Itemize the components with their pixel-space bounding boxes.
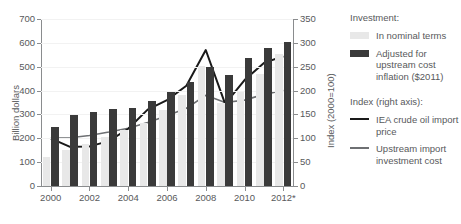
y-axis-left-tick-label: 500 [1,62,35,72]
bar-nominal [178,95,186,186]
bar-nominal [120,130,128,186]
bar-adjusted [129,108,137,186]
y-axis-right-line [293,19,294,186]
x-axis-tick-label: 2008 [186,193,226,203]
bar-nominal [217,103,225,187]
gridline [41,43,293,44]
bar-adjusted [264,48,272,186]
bar-nominal [101,137,109,186]
legend-item-nominal: In nominal terms [350,30,461,42]
x-axis-tick-label: 2010 [225,193,265,203]
legend-item-upstream-cost: Upstream import investment cost [350,143,461,166]
y-axis-left-tick-label: 300 [1,109,35,119]
bar-nominal [62,150,70,186]
y-axis-right-tick-label: 150 [300,109,334,119]
x-axis-tick [89,187,90,191]
x-axis-tick [245,187,246,191]
x-axis-tick-label: 2012* [263,193,303,203]
bar-adjusted [284,42,292,186]
bar-nominal [198,66,206,186]
plot-area [41,19,293,186]
legend-heading-index: Index (right axis): [350,96,461,107]
x-axis-tick-label: 2000 [31,193,71,203]
x-axis-tick [128,187,129,191]
y-axis-right-tick-label: 300 [300,38,334,48]
y-axis-right-tick [294,162,298,163]
y-axis-right-tick-label: 100 [300,133,334,143]
y-axis-right-tick-label: 50 [300,157,334,167]
bar-nominal [43,157,51,186]
bar-adjusted [90,112,98,186]
x-axis-tick-label: 2004 [108,193,148,203]
bar-adjusted [167,92,175,186]
bar-nominal [82,144,90,186]
bar-adjusted [187,82,195,186]
gridline [41,19,293,20]
bar-nominal [159,110,167,186]
legend-swatch-nominal-icon [350,32,369,39]
y-axis-left-tick-label: 200 [1,133,35,143]
bar-nominal [256,74,264,186]
legend-item-crude-oil-price: IEA crude oil import price [350,114,461,137]
legend-line-dark-icon [350,118,369,120]
y-axis-left-tick [37,186,41,187]
legend-label-upstream-cost: Upstream import investment cost [376,143,461,166]
legend-label-adjusted: Adjusted for upstream cost inflation ($2… [376,48,461,83]
bar-adjusted [245,58,253,186]
legend-item-adjusted: Adjusted for upstream cost inflation ($2… [350,48,461,83]
y-axis-left-tick-label: 400 [1,86,35,96]
bar-adjusted [225,75,233,186]
y-axis-right-tick [294,67,298,68]
x-axis-tick-label: 2006 [147,193,187,203]
bar-adjusted [109,109,117,186]
y-axis-right-tick-label: 250 [300,62,334,72]
bar-nominal [140,123,148,186]
x-axis-tick [283,187,284,191]
y-axis-left-tick-label: 600 [1,38,35,48]
legend-label-crude-oil-price: IEA crude oil import price [376,114,461,137]
y-axis-right-tick-label: 200 [300,86,334,96]
x-axis-tick [167,187,168,191]
bar-adjusted [70,115,78,186]
legend: Investment: In nominal terms Adjusted fo… [350,12,461,172]
y-axis-left-tick-label: 0 [1,181,35,191]
y-axis-right-tick [294,91,298,92]
legend-swatch-adjusted-icon [350,50,369,57]
y-axis-right-tick [294,114,298,115]
legend-label-nominal: In nominal terms [376,30,446,42]
gridline [41,67,293,68]
bar-nominal [237,92,245,186]
y-axis-left-tick-label: 100 [1,157,35,167]
y-axis-left-tick-label: 700 [1,14,35,24]
bar-adjusted [51,127,59,186]
y-axis-right-tick [294,19,298,20]
y-axis-right-tick [294,43,298,44]
y-axis-right-tick [294,138,298,139]
y-axis-right-tick [294,186,298,187]
y-axis-right-tick-label: 0 [300,181,334,191]
chart-figure: Billion dollars Index (2000=100) 0100200… [0,0,461,224]
x-axis-tick-label: 2002 [69,193,109,203]
legend-line-gray-icon [350,147,369,149]
bar-adjusted [148,101,156,186]
bar-nominal [275,54,283,186]
x-axis-tick [51,187,52,191]
x-axis-tick [206,187,207,191]
legend-heading-investment: Investment: [350,12,461,23]
y-axis-right-tick-label: 350 [300,14,334,24]
bar-adjusted [206,67,214,186]
